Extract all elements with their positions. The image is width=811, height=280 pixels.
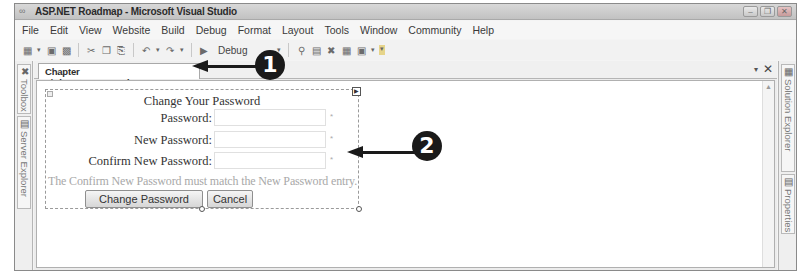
solution-explorer-icon: ▦ [783,66,794,77]
design-surface[interactable]: ▲ ▶ Change Your Password Password: * New… [36,80,775,268]
callout-1-arrow [206,65,261,68]
callout-2-arrow [361,151,416,154]
cut-icon[interactable]: ✂ [85,45,97,56]
confirm-password-label: Confirm New Password: [88,154,212,169]
toolbox-icon: ✖ [19,66,30,77]
document-tab-strip: Chapter 8/ChangePassword.aspx* ▾ ✕ [34,61,777,79]
undo-dropdown-icon[interactable]: ▾ [155,46,161,54]
menu-website[interactable]: Website [113,24,151,36]
add-item-dropdown-icon[interactable]: ▾ [36,46,42,54]
compare-validator-message: The Confirm New Password must match the … [48,174,360,189]
visual-studio-window: ∞ ASP.NET Roadmap - Microsoft Visual Stu… [14,3,797,271]
properties-tab-label: Properties [783,189,794,232]
toolbox-tab[interactable]: ✖ Toolbox [17,64,31,114]
document-close-icon[interactable]: ✕ [763,62,773,76]
menu-edit[interactable]: Edit [50,24,68,36]
toolbar-separator [288,43,289,57]
form-title: Change Your Password [46,94,358,109]
menu-window[interactable]: Window [360,24,397,36]
change-password-button[interactable]: Change Password [85,190,203,208]
extensions-dropdown-icon[interactable]: ▾ [370,46,376,54]
password-field[interactable] [214,109,326,126]
menu-file[interactable]: File [22,24,39,36]
extensions-icon[interactable]: ▣ [355,45,367,56]
redo-dropdown-icon[interactable]: ▾ [179,46,185,54]
confirm-password-field[interactable] [214,152,326,169]
toolbox-icon[interactable]: ✖ [325,45,337,56]
menu-build[interactable]: Build [161,24,184,36]
toolbox-tab-label: Toolbox [19,79,30,112]
document-controls: ▾ ✕ [754,62,773,76]
document-area: Chapter 8/ChangePassword.aspx* ▾ ✕ ▲ ▶ C… [34,61,777,270]
confirm-password-row: Confirm New Password: * [46,152,360,170]
right-dock: ▦ Solution Explorer ▤ Properties [778,61,796,270]
document-tab[interactable]: Chapter 8/ChangePassword.aspx* [38,63,200,79]
redo-icon[interactable]: ↷ [164,45,176,56]
resize-handle-bottom[interactable] [199,206,205,212]
menu-tools[interactable]: Tools [324,24,349,36]
properties-tab[interactable]: ▤ Properties [781,174,795,234]
restore-button[interactable]: ❐ [760,6,775,17]
callout-2-badge: 2 [412,131,442,161]
start-icon[interactable]: ▶ [198,45,210,56]
object-browser-icon[interactable]: ▦ [340,45,352,56]
undo-icon[interactable]: ↶ [140,45,152,56]
menu-help[interactable]: Help [472,24,494,36]
solution-explorer-tab[interactable]: ▦ Solution Explorer [781,64,795,172]
server-explorer-tab-label: Server Explorer [19,131,30,197]
callout-1-badge: 1 [255,50,285,80]
server-explorer-icon: ▤ [19,118,30,129]
toolbar-overflow-icon[interactable]: ▾ [379,45,385,55]
paste-icon[interactable]: ⎘ [115,45,127,56]
window-controls: – ❐ ✕ [743,6,792,17]
left-dock: ✖ Toolbox ▤ Server Explorer [15,61,33,270]
new-password-required-marker: * [330,134,333,143]
close-button[interactable]: ✕ [777,6,792,17]
toolbar-separator [78,43,79,57]
minimize-button[interactable]: – [743,6,758,17]
properties-icon[interactable]: ▤ [310,45,322,56]
save-all-icon[interactable]: ▩ [60,45,72,56]
find-icon[interactable]: ⚲ [295,45,307,56]
properties-icon: ▤ [783,176,794,187]
document-list-dropdown-icon[interactable]: ▾ [754,65,758,74]
password-required-marker: * [330,112,333,121]
resize-handle-corner[interactable] [356,206,362,212]
confirm-password-required-marker: * [330,155,333,164]
visual-studio-logo-icon: ∞ [19,7,29,16]
vertical-scrollbar[interactable]: ▲ [762,81,774,267]
cancel-button[interactable]: Cancel [207,190,253,208]
menu-layout[interactable]: Layout [282,24,314,36]
password-label: Password: [161,111,212,126]
solution-explorer-tab-label: Solution Explorer [783,79,794,151]
new-password-field[interactable] [214,131,326,148]
toolbar-separator [191,43,192,57]
menu-community[interactable]: Community [408,24,461,36]
menu-view[interactable]: View [79,24,102,36]
toolbar-separator [133,43,134,57]
menu-bar: File Edit View Website Build Debug Forma… [15,21,796,39]
window-title: ASP.NET Roadmap - Microsoft Visual Studi… [35,6,237,17]
scroll-up-icon[interactable]: ▲ [765,83,772,90]
title-bar[interactable]: ∞ ASP.NET Roadmap - Microsoft Visual Stu… [15,4,796,20]
menu-format[interactable]: Format [238,24,271,36]
add-item-icon[interactable]: ▦ [21,45,33,56]
change-password-control[interactable]: ▶ Change Your Password Password: * New P… [45,89,359,209]
standard-toolbar: ▦ ▾ ▣ ▩ ✂ ❐ ⎘ ↶ ▾ ↷ ▾ ▶ Debug ▾ ⚲ ▤ ✖ ▦ … [15,40,796,60]
server-explorer-tab[interactable]: ▤ Server Explorer [17,116,31,209]
new-password-row: New Password: * [46,131,360,149]
new-password-label: New Password: [134,133,212,148]
save-icon[interactable]: ▣ [45,45,57,56]
menu-debug[interactable]: Debug [196,24,227,36]
password-row: Password: * [46,109,360,127]
copy-icon[interactable]: ❐ [100,45,112,56]
